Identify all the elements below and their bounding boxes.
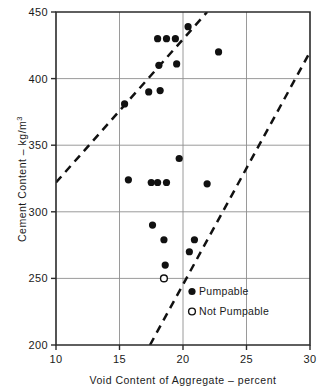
data-point-pumpable bbox=[148, 179, 155, 186]
x-tick-label: 25 bbox=[240, 353, 253, 365]
tick-labels: 2002503003504004501015202530 bbox=[28, 6, 316, 365]
y-tick-label: 250 bbox=[28, 272, 48, 284]
data-point-pumpable bbox=[121, 100, 128, 107]
legend-marker-pumpable bbox=[188, 288, 195, 295]
legend-marker-not-pumpable bbox=[189, 308, 196, 315]
plot-svg: 2002503003504004501015202530 PumpableNot… bbox=[0, 0, 331, 391]
x-tick-label: 15 bbox=[113, 353, 126, 365]
x-tick-label: 10 bbox=[49, 353, 62, 365]
data-point-pumpable bbox=[176, 155, 183, 162]
data-point-pumpable bbox=[160, 236, 167, 243]
data-point-pumpable bbox=[172, 35, 179, 42]
data-point-pumpable bbox=[157, 87, 164, 94]
data-point-pumpable bbox=[154, 179, 161, 186]
data-point-pumpable bbox=[162, 261, 169, 268]
y-tick-label: 200 bbox=[28, 339, 48, 351]
data-point-pumpable bbox=[191, 236, 198, 243]
data-point-pumpable bbox=[154, 35, 161, 42]
data-point-pumpable bbox=[149, 222, 156, 229]
data-point-pumpable bbox=[163, 35, 170, 42]
y-axis-title: Cement Content – kg/m3 bbox=[15, 116, 28, 242]
data-point-pumpable bbox=[145, 88, 152, 95]
data-point-not-pumpable bbox=[161, 275, 168, 282]
lower-boundary-line bbox=[150, 52, 310, 345]
upper-boundary-line bbox=[56, 12, 207, 182]
x-tick-label: 30 bbox=[303, 353, 316, 365]
legend-label: Pumpable bbox=[199, 285, 249, 297]
data-point-pumpable bbox=[155, 62, 162, 69]
y-tick-label: 350 bbox=[28, 139, 48, 151]
legend: PumpableNot Pumpable bbox=[188, 285, 269, 317]
x-axis-title: Void Content of Aggregate – percent bbox=[90, 374, 277, 386]
legend-label: Not Pumpable bbox=[199, 305, 269, 317]
data-point-pumpable bbox=[215, 48, 222, 55]
gridlines bbox=[56, 12, 310, 345]
data-point-pumpable bbox=[163, 179, 170, 186]
y-tick-label: 300 bbox=[28, 206, 48, 218]
x-tick-label: 20 bbox=[176, 353, 189, 365]
scatter-chart: 2002503003504004501015202530 PumpableNot… bbox=[0, 0, 331, 391]
data-point-pumpable bbox=[204, 180, 211, 187]
data-point-pumpable bbox=[173, 60, 180, 67]
data-point-pumpable bbox=[184, 23, 191, 30]
y-tick-label: 400 bbox=[28, 73, 48, 85]
data-point-pumpable bbox=[186, 248, 193, 255]
y-tick-label: 450 bbox=[28, 6, 48, 18]
data-point-pumpable bbox=[125, 176, 132, 183]
tick-marks bbox=[51, 12, 310, 350]
